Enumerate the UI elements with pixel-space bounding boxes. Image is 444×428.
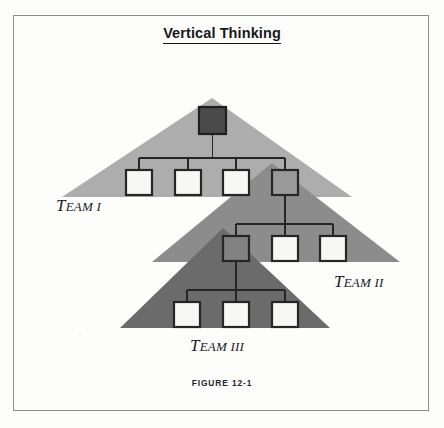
team-label-3: TEAM III xyxy=(190,336,244,356)
team-label-1-word: EAM xyxy=(66,199,93,214)
node-tier1-3[interactable] xyxy=(223,170,249,195)
team-label-1-lead: T xyxy=(56,196,66,215)
node-tier3-1[interactable] xyxy=(174,302,200,327)
team-label-3-numeral: III xyxy=(230,339,244,354)
node-root[interactable] xyxy=(199,107,226,134)
node-tier1-4[interactable] xyxy=(272,170,298,195)
node-tier2-2[interactable] xyxy=(272,236,298,261)
team-label-3-word: EAM xyxy=(200,339,227,354)
node-tier3-3[interactable] xyxy=(272,302,298,327)
team-label-1-numeral: I xyxy=(96,199,101,214)
team-label-2-numeral: II xyxy=(374,275,383,290)
team-label-2-lead: T xyxy=(334,272,344,291)
team-label-1: TEAM I xyxy=(56,196,101,216)
team-label-3-lead: T xyxy=(190,336,200,355)
node-tier1-2[interactable] xyxy=(175,170,201,195)
page-canvas: Vertical Thinking xyxy=(0,0,444,428)
team-label-2: TEAM II xyxy=(334,272,383,292)
node-tier2-3[interactable] xyxy=(320,236,346,261)
figure-caption: FIGURE 12-1 xyxy=(0,378,444,388)
team-label-2-word: EAM xyxy=(344,275,371,290)
node-tier2-1[interactable] xyxy=(223,236,249,261)
node-tier1-1[interactable] xyxy=(126,170,152,195)
node-tier3-2[interactable] xyxy=(223,302,249,327)
